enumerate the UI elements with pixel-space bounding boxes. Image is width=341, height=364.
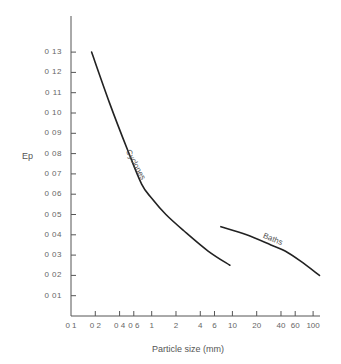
y-tick-label: 0 01	[32, 291, 62, 300]
y-tick-label: 0 11	[32, 88, 62, 97]
x-tick-label: 0 6	[128, 321, 139, 330]
y-tick-label: 0 06	[32, 189, 62, 198]
y-tick-label: 0 04	[32, 230, 62, 239]
x-tick-label: 2	[174, 321, 178, 330]
y-tick-label: 0 05	[32, 210, 62, 219]
x-tick-label: 60	[291, 321, 300, 330]
x-tick-label: 40	[277, 321, 286, 330]
x-tick-label: 10	[228, 321, 237, 330]
cyclones-curve	[92, 52, 230, 265]
x-tick-label: 1	[149, 321, 153, 330]
x-axis-title: Particle size (mm)	[152, 344, 224, 354]
x-tick-label: 100	[306, 321, 319, 330]
y-tick-label: 0 02	[32, 270, 62, 279]
y-axis-title: Ep	[22, 151, 33, 161]
y-tick-label: 0 09	[32, 128, 62, 137]
y-tick-label: 0 10	[32, 108, 62, 117]
y-tick-label: 0 03	[32, 250, 62, 259]
y-tick-label: 0 13	[32, 47, 62, 56]
y-tick-label: 0 08	[32, 149, 62, 158]
x-tick-label: 0 4	[114, 321, 125, 330]
y-tick-label: 0 12	[32, 67, 62, 76]
x-tick-label: 4	[198, 321, 202, 330]
x-tick-label: 20	[252, 321, 261, 330]
x-tick-label: 6	[212, 321, 216, 330]
x-tick-label: 0 2	[90, 321, 101, 330]
x-tick-label: 0 1	[65, 321, 76, 330]
y-tick-label: 0 07	[32, 169, 62, 178]
